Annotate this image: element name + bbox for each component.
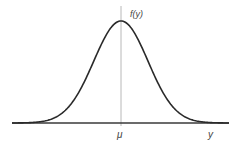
y-axis-label: f(y) <box>130 9 143 19</box>
x-axis-label: y <box>207 129 214 140</box>
density-curve <box>12 21 229 123</box>
normal-distribution-chart: f(y) μ y <box>0 0 241 147</box>
mean-tick-label: μ <box>116 129 123 140</box>
